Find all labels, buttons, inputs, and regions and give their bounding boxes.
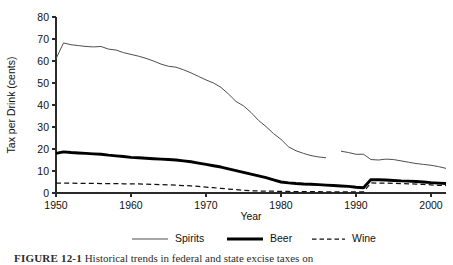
series-line-wine (56, 183, 446, 192)
y-tick-label: 40 (37, 99, 49, 111)
figure-container: 01020304050607080 1950196019701980199020… (0, 0, 453, 265)
x-tick-label: 1970 (194, 199, 218, 211)
figure-caption: FIGURE 12-1 Historical trends in federal… (14, 252, 444, 264)
series-line-spirits (56, 43, 446, 168)
y-tick-label: 50 (37, 77, 49, 89)
x-tick-label: 2000 (419, 199, 443, 211)
y-tick-label: 20 (37, 143, 49, 155)
y-axis-ticks: 01020304050607080 (37, 11, 56, 199)
series-line-beer (56, 152, 446, 188)
y-tick-label: 10 (37, 165, 49, 177)
y-tick-label: 80 (37, 11, 49, 23)
x-axis-title: Year (240, 210, 262, 222)
chart-axes (56, 17, 446, 193)
legend-label-spirits: Spirits (175, 232, 204, 244)
figure-caption-number: FIGURE 12-1 (14, 252, 82, 264)
chart-series (56, 43, 446, 192)
x-tick-label: 1950 (44, 199, 68, 211)
chart-legend: Spirits Beer Wine (132, 232, 376, 244)
y-tick-label: 60 (37, 55, 49, 67)
x-axis-ticks: 195019601970198019902000 (44, 193, 443, 211)
line-chart: 01020304050607080 1950196019701980199020… (0, 0, 453, 265)
x-tick-label: 1960 (119, 199, 143, 211)
y-tick-label: 30 (37, 121, 49, 133)
y-tick-label: 70 (37, 33, 49, 45)
x-tick-label: 1980 (269, 199, 293, 211)
legend-label-beer: Beer (270, 232, 293, 244)
figure-caption-text: Historical trends in federal and state e… (85, 252, 313, 264)
x-tick-label: 1990 (344, 199, 368, 211)
legend-label-wine: Wine (352, 232, 376, 244)
y-tick-label: 0 (43, 187, 49, 199)
y-axis-title: Tax per Drink (cents) (5, 57, 17, 154)
